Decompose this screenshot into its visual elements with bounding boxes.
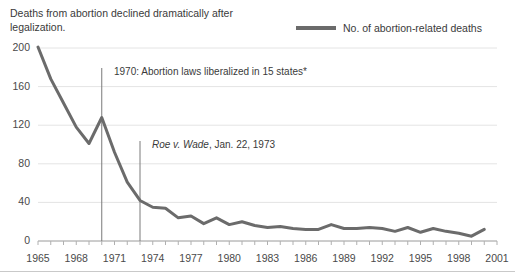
annotation-roe-v-wade: Roe v. Wade, Jan. 22, 1973	[152, 139, 275, 150]
footer-divider	[0, 271, 515, 272]
chart-root: Deaths from abortion declined dramatical…	[0, 0, 515, 277]
y-axis-tick-label: 0	[4, 234, 30, 246]
x-axis-tick-label: 1983	[248, 252, 288, 264]
event-marker-lines	[102, 68, 140, 241]
x-axis-tick-label: 1974	[133, 252, 173, 264]
y-axis-tick-label: 40	[4, 195, 30, 207]
annotation-case-name: Roe v. Wade	[152, 139, 209, 150]
y-axis-tick-label: 80	[4, 157, 30, 169]
x-axis-tick-label: 1998	[439, 252, 479, 264]
x-axis-tick-label: 1968	[56, 252, 96, 264]
annotation-case-date: , Jan. 22, 1973	[209, 139, 275, 150]
x-axis-tick-label: 1995	[401, 252, 441, 264]
x-axis-tick-label: 1986	[286, 252, 326, 264]
y-axis-tick-label: 200	[4, 41, 30, 53]
y-axis-tick-label: 160	[4, 80, 30, 92]
y-axis-tick-label: 120	[4, 118, 30, 130]
x-axis-tick-label: 1965	[18, 252, 58, 264]
x-axis-tick-label: 1977	[171, 252, 211, 264]
x-axis-tick-label: 1992	[362, 252, 402, 264]
x-axis-tick-label: 2001	[477, 252, 515, 264]
x-axis-tick-label: 1989	[324, 252, 364, 264]
x-axis-tick-label: 1971	[95, 252, 135, 264]
x-axis-tick-label: 1980	[209, 252, 249, 264]
x-axis-ticks	[38, 241, 497, 245]
annotation-1970: 1970: Abortion laws liberalized in 15 st…	[114, 66, 307, 77]
